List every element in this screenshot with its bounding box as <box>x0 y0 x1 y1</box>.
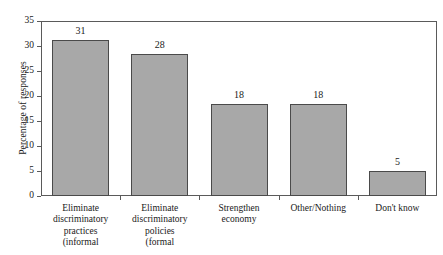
x-axis-tick-mark <box>120 196 121 200</box>
bar-value-label: 18 <box>209 89 269 100</box>
y-axis-tick-label: 10 <box>25 140 35 150</box>
y-axis-tick-label: 20 <box>25 90 35 100</box>
bar-value-label: 28 <box>130 39 190 50</box>
bar-value-label: 31 <box>51 25 111 36</box>
bar-chart-figure: Percentage of responses 05101520253035 3… <box>0 0 443 255</box>
y-axis-tick-label: 15 <box>25 115 35 125</box>
bar-value-label: 18 <box>288 89 348 100</box>
bar <box>52 40 109 196</box>
y-axis-tick-label: 5 <box>29 165 34 175</box>
bar <box>290 104 347 197</box>
bar <box>131 54 188 197</box>
bar <box>369 171 426 197</box>
y-axis-tick-label: 25 <box>25 65 35 75</box>
x-axis-category-label: Eliminatediscriminatorypolicies(formal <box>120 203 199 249</box>
x-axis-category-label: Other/Nothing <box>279 203 358 214</box>
x-axis-category-label: Strengtheneconomy <box>199 203 278 226</box>
x-axis-tick-mark <box>279 196 280 200</box>
y-axis-tick-mark <box>37 196 41 197</box>
bar-value-label: 5 <box>367 156 427 167</box>
y-axis-tick-label: 35 <box>25 15 35 25</box>
y-axis-tick-label: 30 <box>25 40 35 50</box>
y-axis-tick-label: 0 <box>29 190 34 200</box>
x-axis-category-label: Eliminatediscriminatorypractices(informa… <box>41 203 120 249</box>
x-axis-category-label: Don't know <box>358 203 437 214</box>
x-axis-tick-mark <box>199 196 200 200</box>
bar <box>211 104 268 196</box>
x-axis-tick-mark <box>358 196 359 200</box>
